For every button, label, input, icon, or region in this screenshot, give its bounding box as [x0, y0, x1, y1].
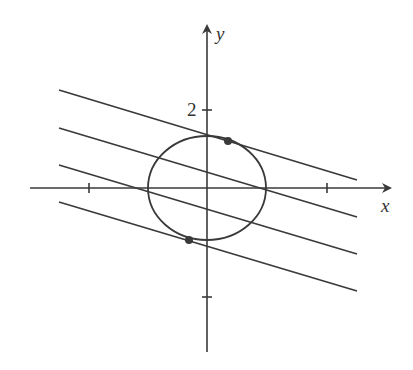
parallel-lines	[59, 90, 357, 291]
x-axis-label: x	[380, 195, 390, 216]
y-tick-label-2: 2	[187, 99, 197, 120]
y-axis-label: y	[214, 23, 225, 44]
parallel-line-4	[59, 202, 357, 291]
tangent-point-1	[224, 137, 232, 145]
tangent-point-2	[185, 236, 193, 244]
tangent-points	[185, 137, 232, 244]
parallel-line-1	[59, 90, 357, 180]
ellipse-tangent-lines-diagram: x y 2	[0, 0, 413, 370]
parallel-line-2	[59, 128, 357, 217]
